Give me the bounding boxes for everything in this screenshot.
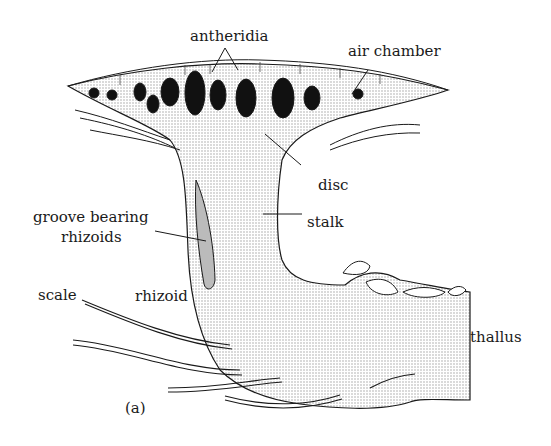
diagram: antheridia air chamber disc stalk groove…	[0, 0, 551, 446]
label-rhizoids: rhizoids	[61, 230, 122, 245]
label-stalk: stalk	[307, 215, 344, 230]
label-air-chamber: air chamber	[348, 44, 441, 59]
body-tissue	[68, 64, 470, 409]
label-rhizoid: rhizoid	[135, 289, 188, 304]
panel-label: (a)	[125, 401, 146, 416]
label-scale: scale	[38, 288, 77, 303]
label-thallus: thallus	[470, 330, 522, 345]
label-antheridia: antheridia	[190, 29, 268, 44]
label-groove-bearing: groove bearing	[33, 210, 149, 225]
label-disc: disc	[318, 178, 349, 193]
